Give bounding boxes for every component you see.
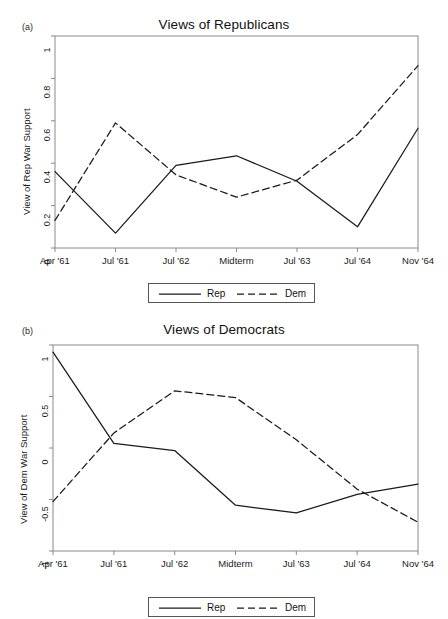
legend-label-rep: Rep [207,288,225,299]
x-tick-label: Apr '61 [18,558,88,569]
x-tick-label: Jul '62 [141,255,211,266]
x-tick-label: Jul '61 [79,558,149,569]
x-tick-label: Nov '64 [383,255,448,266]
x-tick-label: Jul '63 [261,558,331,569]
series-line-rep [55,128,418,233]
chart-panel-a: (a) Views of Republicans View of Rep War… [0,0,448,310]
series-line-dem [53,391,418,522]
y-tick-label: 0.4 [42,162,52,192]
plot-frame [53,345,418,551]
y-tick-label: 0.6 [42,120,52,150]
y-tick-label: 0.5 [40,396,50,426]
x-tick-label: Jul '61 [81,255,151,266]
y-tick-label: -0.5 [40,499,50,529]
panel-b-legend: RepDem [148,597,315,617]
legend-label-dem: Dem [285,288,306,299]
panel-b-plot-area [0,309,448,619]
legend-label-rep: Rep [207,602,225,613]
y-tick-label: 0 [40,447,50,477]
x-tick-label: Midterm [202,255,272,266]
x-tick-label: Apr '61 [20,255,90,266]
y-tick-label: 1 [40,344,50,374]
y-tick-label: 1 [42,35,52,65]
panel-a-legend: RepDem [148,283,315,303]
x-tick-label: Jul '63 [262,255,332,266]
x-tick-label: Jul '62 [140,558,210,569]
legend-label-dem: Dem [285,602,306,613]
y-tick-label: 0.2 [42,205,52,235]
chart-panel-b: (b) Views of Democrats View of Dem War S… [0,309,448,619]
y-tick-label: 0.8 [42,77,52,107]
series-line-rep [53,352,418,513]
x-tick-label: Jul '64 [323,255,393,266]
x-tick-label: Midterm [201,558,271,569]
x-tick-label: Jul '64 [322,558,392,569]
series-line-dem [55,66,418,221]
x-tick-label: Nov '64 [383,558,448,569]
